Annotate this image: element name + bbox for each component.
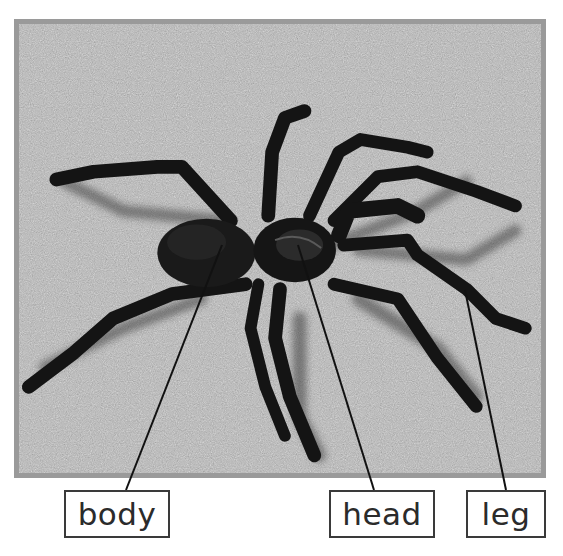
label-head: head [329,490,435,538]
label-body-text: body [78,496,157,532]
label-leg: leg [466,490,546,538]
spider-illustration [19,24,541,473]
label-head-text: head [342,496,421,532]
label-leg-text: leg [482,496,531,532]
spider-photo [14,19,546,478]
label-body: body [64,490,170,538]
